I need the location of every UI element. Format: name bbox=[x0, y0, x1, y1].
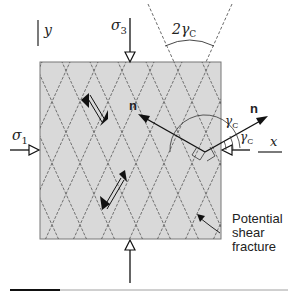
x-axis-label: x bbox=[270, 134, 278, 149]
shear-fracture-diagram: y σ3 σ1 x 2γC n n bbox=[0, 0, 299, 295]
normal-label-left: n bbox=[129, 98, 137, 113]
sigma3-label: σ3 bbox=[111, 17, 127, 36]
cone-angle-arc bbox=[165, 40, 214, 46]
fracture-line bbox=[260, 40, 299, 260]
annotation-shear: shear bbox=[232, 225, 265, 240]
fracture-line bbox=[276, 40, 299, 260]
bottom-stress-arrow bbox=[125, 240, 135, 283]
y-axis-label: y bbox=[43, 22, 53, 38]
annotation-potential: Potential bbox=[232, 211, 283, 226]
sigma1-arrow bbox=[10, 145, 39, 155]
sigma1-label: σ1 bbox=[12, 127, 28, 146]
gamma-label-upper: γC bbox=[225, 114, 238, 130]
annotation-fracture: fracture bbox=[232, 239, 276, 254]
gamma-label-lower: γC bbox=[240, 130, 253, 146]
cone-angle-label: 2γC bbox=[171, 21, 196, 39]
fracture-line bbox=[288, 40, 299, 260]
normal-label-right: n bbox=[250, 101, 258, 116]
